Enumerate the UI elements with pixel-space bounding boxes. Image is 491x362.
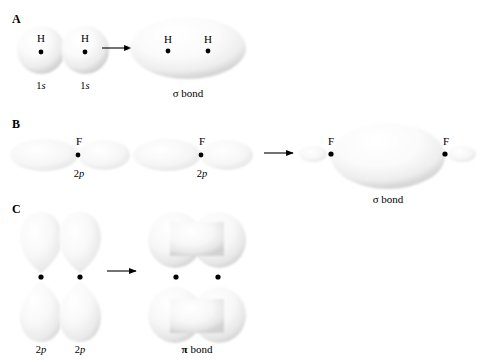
panel-c-reactant-2-orbital-label: 2p <box>75 344 86 355</box>
panel-b-reactant-1-nucleus <box>76 153 81 158</box>
panel-b-reactant-2-orbital-label: 2p <box>197 168 208 179</box>
panel-b-product-atom-label-1: F <box>328 136 334 147</box>
panel-b-reactant-2-nucleus <box>199 153 204 158</box>
panel-b-reactant-2-atom-label: F <box>199 136 205 147</box>
panel-a-reactant-2-orbital-label: 1s <box>80 80 89 91</box>
panel-c-reactant-2-nucleus <box>77 274 82 279</box>
panel-b-reactant-1-orbital-label: 2p <box>74 168 85 179</box>
panel-c-product-nucleus-1 <box>173 274 178 279</box>
panel-a-product-atom-label-1: H <box>164 34 172 45</box>
panel-a-reactant-2-nucleus <box>83 50 88 55</box>
panel-letter-b: B <box>12 118 20 130</box>
panel-c-reactant-1-nucleus <box>38 274 43 279</box>
orbital-overlap-figure <box>0 0 491 362</box>
panel-c-reactant-1-orbital-label: 2p <box>36 344 47 355</box>
panel-b-reactant-2-orbital <box>133 139 253 171</box>
panel-a-bond-label: σ bond <box>173 88 204 99</box>
panel-letter-a: A <box>12 13 21 25</box>
panel-a-reactant-1-orbital-label: 1s <box>36 80 45 91</box>
panel-c-group <box>20 212 246 343</box>
panel-a-product-nucleus-1 <box>166 49 171 54</box>
panel-letter-c: C <box>12 203 21 215</box>
panel-b-product-nucleus-2 <box>442 151 447 156</box>
panel-b-group <box>10 123 476 189</box>
panel-a-reactant-2-atom-label: H <box>81 33 89 44</box>
panel-b-reactant-1-atom-label: F <box>76 136 82 147</box>
panel-b-product-nucleus-1 <box>328 151 333 156</box>
panel-a-product-orbital <box>130 17 246 79</box>
panel-a-product-atom-label-2: H <box>204 34 212 45</box>
panel-a-group <box>17 17 246 79</box>
panel-b-product-orbital <box>299 123 476 189</box>
panel-c-product-nucleus-2 <box>215 274 220 279</box>
panel-b-product-atom-label-2: F <box>443 136 449 147</box>
panel-c-bond-label: π bond <box>182 344 213 355</box>
panel-a-reactant-1-atom-label: H <box>37 33 45 44</box>
panel-a-product-nucleus-2 <box>206 49 211 54</box>
panel-a-reactant-1-nucleus <box>39 50 44 55</box>
panel-b-reactant-1-orbital <box>10 139 130 171</box>
panel-c-product-orbital <box>148 212 246 343</box>
panel-b-bond-label: σ bond <box>373 194 404 205</box>
